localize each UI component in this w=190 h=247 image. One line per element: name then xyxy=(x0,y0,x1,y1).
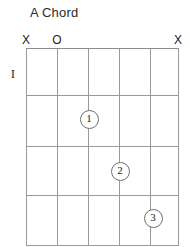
finger-dot-1: 1 xyxy=(80,110,99,129)
fret-line-4 xyxy=(26,245,179,246)
chord-diagram-card: A Chord I XOX 123 xyxy=(0,0,190,247)
fret-line-2 xyxy=(26,146,179,147)
finger-dot-3: 3 xyxy=(144,209,163,228)
fretboard-grid: 123 xyxy=(0,0,190,247)
fret-line-1 xyxy=(26,95,179,96)
finger-dot-2: 2 xyxy=(111,162,130,181)
nut-line xyxy=(26,48,179,49)
fret-line-3 xyxy=(26,195,179,196)
